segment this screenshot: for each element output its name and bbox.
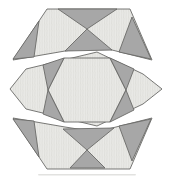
hexagon-dissection-figure <box>0 0 173 179</box>
figure-canvas <box>0 0 173 179</box>
scan-artifact-smudge <box>38 174 136 176</box>
dissection-pieces <box>10 9 162 169</box>
